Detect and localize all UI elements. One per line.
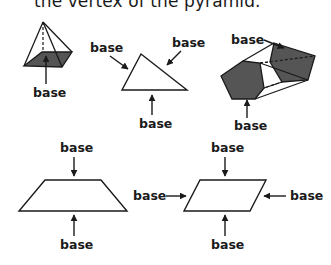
trapezoid-figure: base base <box>19 140 127 252</box>
trapezoid-bottom-label: base <box>60 237 93 252</box>
triangle-left-label: base <box>90 40 123 55</box>
prism-top-label: base <box>231 32 264 47</box>
prism-bottom-label: base <box>234 118 267 133</box>
triangle-bottom-label: base <box>139 116 172 131</box>
parallelogram-left-label: base <box>133 188 166 203</box>
geometry-diagram: base base base base base base base ba <box>0 0 331 265</box>
parallelogram-bottom-label: base <box>211 237 244 252</box>
pyramid-base-label: base <box>33 85 66 100</box>
trapezoid-top-label: base <box>60 140 93 155</box>
pyramid-figure: base <box>24 22 72 100</box>
parallelogram-right-label: base <box>290 188 323 203</box>
triangle-right-label: base <box>172 35 205 50</box>
parallelogram-top-label: base <box>211 140 244 155</box>
parallelogram-figure: base base base base <box>133 140 323 252</box>
triangle-figure: base base base <box>90 35 205 131</box>
pentagonal-prism-figure: base base <box>221 32 315 133</box>
